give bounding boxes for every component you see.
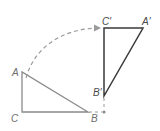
label-A: A <box>11 67 19 78</box>
diagram-canvas: A C B C′ A′ B′ <box>0 0 160 131</box>
rotation-arc <box>26 28 100 78</box>
rotation-diagram: A C B C′ A′ B′ <box>0 0 160 131</box>
label-B-prime: B′ <box>93 87 103 98</box>
label-C: C <box>11 113 19 124</box>
label-A-prime: A′ <box>141 16 152 27</box>
label-C-prime: C′ <box>102 16 112 27</box>
image-triangle <box>104 28 143 96</box>
label-B: B <box>91 113 98 124</box>
original-triangle <box>22 72 88 112</box>
rotation-center-point <box>102 110 105 113</box>
